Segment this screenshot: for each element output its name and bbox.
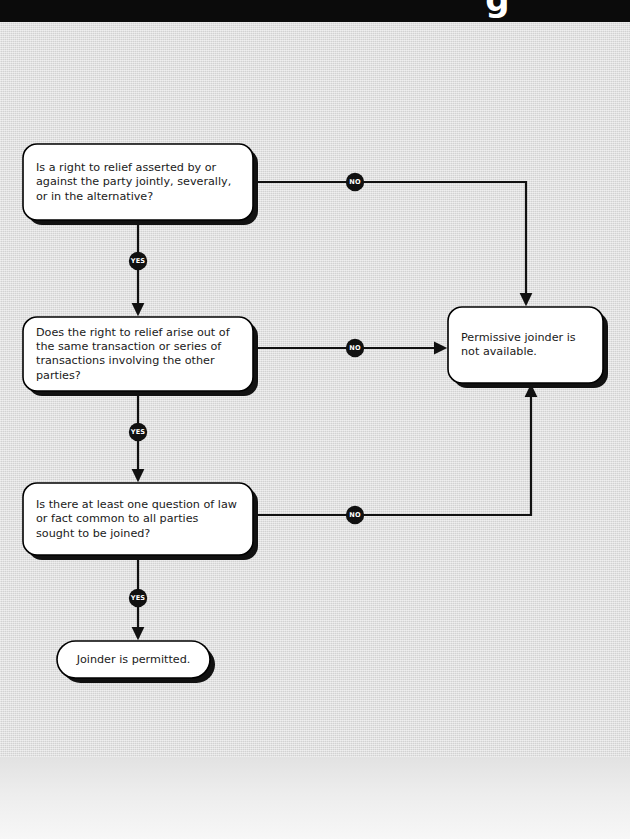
- flowchart-svg: Is a right to relief asserted by oragain…: [0, 0, 630, 839]
- connector-q3-to-no-end: [253, 386, 531, 515]
- edge-label-e5-no: NO: [346, 339, 364, 357]
- badge-label: NO: [349, 344, 361, 352]
- edge-label-e1-yes: YES: [129, 252, 147, 270]
- badge-label: NO: [349, 511, 361, 519]
- node-label-yes-end: Joinder is permitted.: [76, 653, 191, 666]
- edge-label-e4-no: NO: [346, 173, 364, 191]
- badge-label: YES: [130, 594, 146, 602]
- badge-label: NO: [349, 178, 361, 186]
- edge-label-e6-no: NO: [346, 506, 364, 524]
- edge-label-e2-yes: YES: [129, 423, 147, 441]
- connectors-layer: [138, 182, 531, 638]
- connector-q1-to-no-end: [253, 182, 526, 304]
- nodes-layer: Is a right to relief asserted by oragain…: [23, 144, 608, 683]
- edge-label-e3-yes: YES: [129, 589, 147, 607]
- badge-label: YES: [130, 428, 146, 436]
- flowchart-page: g Is a right to relief asserted by oraga…: [0, 0, 630, 839]
- badge-label: YES: [130, 257, 146, 265]
